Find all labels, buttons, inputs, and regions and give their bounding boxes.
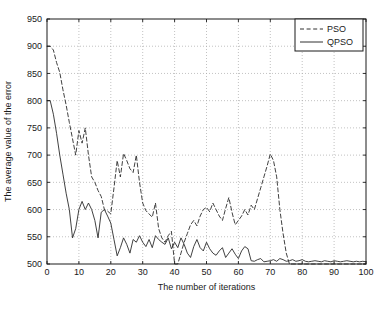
x-tick-label: 90 xyxy=(329,267,339,277)
line-chart: 0102030405060708090100500550600650700750… xyxy=(0,0,388,309)
x-tick-label: 10 xyxy=(74,267,84,277)
x-tick-label: 70 xyxy=(265,267,275,277)
x-tick-label: 100 xyxy=(358,267,373,277)
y-tick-label: 500 xyxy=(27,259,42,269)
x-axis-title: The number of iterations xyxy=(158,282,256,292)
x-tick-label: 0 xyxy=(44,267,49,277)
x-tick-label: 50 xyxy=(201,267,211,277)
legend-label-pso: PSO xyxy=(327,24,346,34)
y-tick-label: 800 xyxy=(27,96,42,106)
y-tick-label: 950 xyxy=(27,14,42,24)
x-tick-label: 20 xyxy=(106,267,116,277)
y-tick-label: 750 xyxy=(27,123,42,133)
x-tick-label: 40 xyxy=(170,267,180,277)
x-tick-label: 60 xyxy=(233,267,243,277)
y-axis-title: The average value of the error xyxy=(3,81,13,202)
x-tick-label: 30 xyxy=(138,267,148,277)
y-tick-label: 900 xyxy=(27,41,42,51)
y-tick-label: 550 xyxy=(27,232,42,242)
legend-label-qpso: QPSO xyxy=(327,37,353,47)
y-tick-label: 600 xyxy=(27,205,42,215)
y-tick-label: 700 xyxy=(27,150,42,160)
y-tick-label: 850 xyxy=(27,69,42,79)
chart-legend: PSOQPSO xyxy=(295,19,363,51)
y-tick-label: 650 xyxy=(27,178,42,188)
x-tick-label: 80 xyxy=(297,267,307,277)
chart-figure: 0102030405060708090100500550600650700750… xyxy=(0,0,388,309)
